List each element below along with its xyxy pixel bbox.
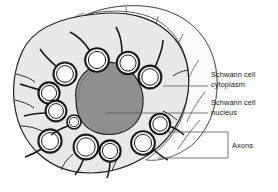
label-axons: Axons [232, 141, 253, 150]
label-nucleus-line1: Schwann cell [211, 98, 256, 107]
diagram-canvas: Schwann cell cytoplasm Schwann cell nucl… [0, 0, 278, 192]
label-schwann-cell-cytoplasm: Schwann cell cytoplasm [211, 70, 256, 89]
label-axons-line1: Axons [232, 141, 253, 150]
schwann-cell-diagram: Schwann cell cytoplasm Schwann cell nucl… [0, 0, 278, 192]
label-cytoplasm-line1: Schwann cell [211, 70, 256, 79]
label-schwann-cell-nucleus: Schwann cell nucleus [211, 98, 256, 117]
axons-bracket [212, 132, 228, 158]
label-nucleus-line2: nucleus [211, 108, 237, 117]
label-cytoplasm-line2: cytoplasm [211, 80, 245, 89]
